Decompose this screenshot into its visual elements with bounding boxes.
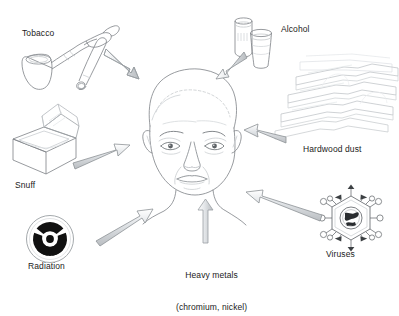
label-tobacco: Tobacco xyxy=(22,28,54,39)
label-heavy-metals: Heavy metals (chromium, nickel) xyxy=(176,249,247,316)
label-alcohol: Alcohol xyxy=(281,24,310,35)
radiation-trefoil-icon xyxy=(27,216,74,263)
label-heavy-metals-line1: Heavy metals xyxy=(176,270,247,281)
label-radiation: Radiation xyxy=(28,261,65,272)
label-heavy-metals-line2: (chromium, nickel) xyxy=(176,302,247,313)
label-hardwood-dust: Hardwood dust xyxy=(303,144,361,155)
label-viruses: Viruses xyxy=(326,249,355,260)
label-snuff: Snuff xyxy=(15,180,35,191)
